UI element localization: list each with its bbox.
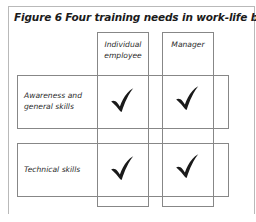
row-label-awareness-and-general-skills: Awareness and general skills xyxy=(24,91,96,112)
check-icon-technical-manager xyxy=(173,152,203,182)
column-header-individual-employee: Individual employee xyxy=(97,40,149,61)
check-icon-awareness-individual-employee xyxy=(108,86,138,116)
check-icon-technical-individual-employee xyxy=(108,154,138,184)
figure-title: Figure 6 Four training needs in work-lif… xyxy=(14,11,252,23)
row-label-technical-skills: Technical skills xyxy=(24,165,96,176)
check-icon-awareness-manager xyxy=(173,84,203,114)
figure-container: Figure 6 Four training needs in work-lif… xyxy=(0,0,256,222)
column-header-manager: Manager xyxy=(162,40,214,51)
